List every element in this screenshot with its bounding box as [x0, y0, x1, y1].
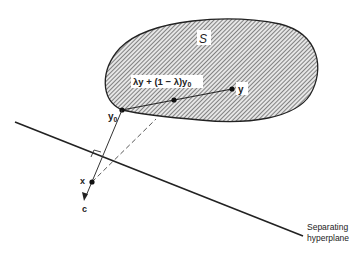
- point-y: [229, 86, 234, 91]
- hyperplane-label-line2: hyperplane: [307, 233, 349, 243]
- separating-hyperplane: [15, 122, 303, 236]
- hyperplane-label-line1: Separating: [307, 222, 348, 232]
- separating-hyperplane-diagram: S λy + (1 − λ)y0 y y0 x c Separating hyp…: [0, 0, 362, 257]
- point-y0-label: y0: [108, 111, 118, 123]
- set-label: S: [199, 32, 207, 46]
- convex-set-s: [105, 19, 318, 121]
- point-combination: [171, 97, 176, 102]
- point-x: [89, 179, 94, 184]
- point-x-label: x: [80, 176, 85, 186]
- vector-c-label: c: [82, 204, 87, 214]
- point-y-label: y: [238, 84, 244, 95]
- dashed-line-x-to-s: [92, 119, 156, 182]
- combination-label: λy + (1 − λ)y0: [133, 76, 191, 88]
